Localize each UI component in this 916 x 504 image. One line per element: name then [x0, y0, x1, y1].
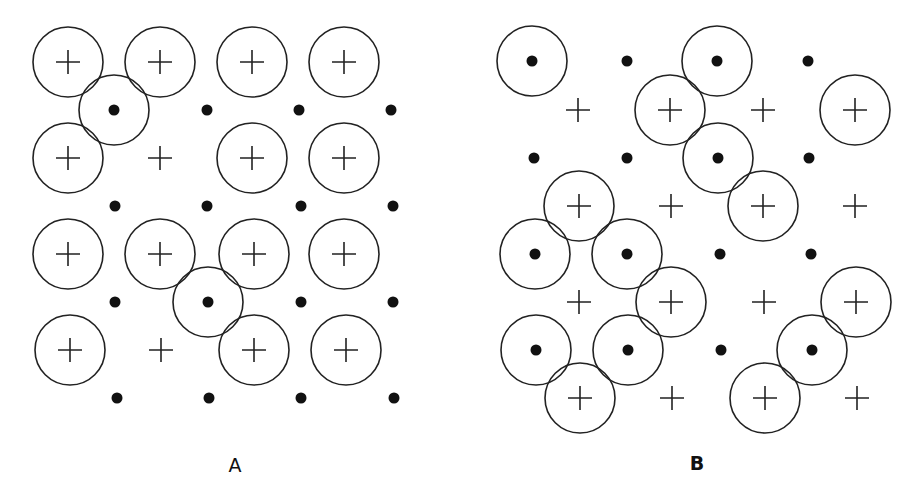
panel-b-label: B [690, 452, 704, 474]
positive-ion-icon [568, 386, 592, 410]
negative-ion-dot-icon [622, 56, 633, 67]
negative-ion-dot-icon [712, 56, 723, 67]
positive-ion-icon [56, 50, 80, 74]
negative-ion-dot-icon [388, 297, 399, 308]
positive-ion-icon [845, 386, 869, 410]
negative-ion-dot-icon [296, 201, 307, 212]
negative-ion-dot-icon [202, 201, 213, 212]
positive-ion-icon [843, 194, 867, 218]
positive-ion-icon [844, 290, 868, 314]
positive-ion-icon [240, 146, 264, 170]
lattice-diagram: A B [0, 0, 916, 504]
positive-ion-icon [332, 242, 356, 266]
negative-ion-dot-icon [531, 345, 542, 356]
negative-ion-dot-icon [623, 345, 634, 356]
negative-ion-dot-icon [203, 297, 214, 308]
negative-ion-dot-icon [389, 393, 400, 404]
negative-ion-dot-icon [622, 249, 633, 260]
positive-ion-icon [660, 386, 684, 410]
negative-ion-dot-icon [202, 105, 213, 116]
positive-ion-icon [567, 194, 591, 218]
positive-ion-icon [56, 242, 80, 266]
positive-ion-icon [332, 50, 356, 74]
positive-ion-icon [659, 194, 683, 218]
negative-ion-dot-icon [204, 393, 215, 404]
negative-ion-dot-icon [803, 56, 814, 67]
positive-ion-icon [242, 242, 266, 266]
positive-ion-icon [58, 338, 82, 362]
negative-ion-dot-icon [716, 345, 727, 356]
negative-ion-dot-icon [806, 249, 817, 260]
negative-ion-dot-icon [112, 393, 123, 404]
negative-ion-dot-icon [294, 105, 305, 116]
positive-ion-icon [567, 290, 591, 314]
positive-ion-icon [658, 98, 682, 122]
positive-ion-icon [566, 98, 590, 122]
panel-a-label: A [229, 454, 242, 476]
negative-ion-dot-icon [296, 297, 307, 308]
positive-ion-icon [149, 338, 173, 362]
positive-ion-icon [148, 242, 172, 266]
negative-ion-dot-icon [529, 153, 540, 164]
negative-ion-dot-icon [388, 201, 399, 212]
positive-ion-icon [334, 338, 358, 362]
negative-ion-dot-icon [110, 201, 121, 212]
negative-ion-dot-icon [109, 105, 120, 116]
positive-ion-icon [148, 50, 172, 74]
positive-ion-icon [753, 386, 777, 410]
positive-ion-icon [751, 98, 775, 122]
lattice-figure [0, 0, 916, 504]
negative-ion-dot-icon [386, 105, 397, 116]
negative-ion-dot-icon [807, 345, 818, 356]
positive-ion-icon [332, 146, 356, 170]
negative-ion-dot-icon [296, 393, 307, 404]
positive-ion-icon [843, 98, 867, 122]
positive-ion-icon [659, 290, 683, 314]
negative-ion-dot-icon [527, 56, 538, 67]
positive-ion-icon [240, 50, 264, 74]
positive-ion-icon [148, 146, 172, 170]
negative-ion-dot-icon [530, 249, 541, 260]
negative-ion-dot-icon [622, 153, 633, 164]
negative-ion-dot-icon [804, 153, 815, 164]
positive-ion-icon [752, 290, 776, 314]
negative-ion-dot-icon [715, 249, 726, 260]
positive-ion-icon [751, 194, 775, 218]
negative-ion-dot-icon [713, 153, 724, 164]
negative-ion-dot-icon [110, 297, 121, 308]
positive-ion-icon [56, 146, 80, 170]
positive-ion-icon [242, 338, 266, 362]
